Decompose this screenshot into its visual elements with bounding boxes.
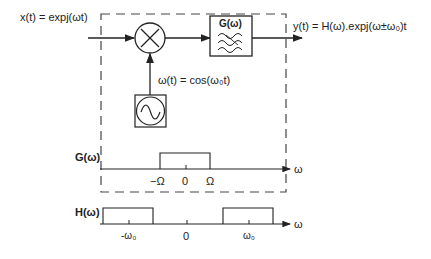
output-signal-label: y(t) = H(ω).expj(ω±ω₀)t [293,21,407,32]
g-tick-neg-omega: −Ω [150,176,165,187]
h-plot-xlabel: ω [294,219,303,230]
input-signal-label: x(t) = expj(ωt) [20,12,88,23]
g-plot-ylabel: G(ω) [75,152,100,163]
g-spectrum-plot [100,153,290,169]
mixer-icon [135,23,165,53]
g-tick-zero: 0 [182,176,188,187]
g-tick-omega: Ω [206,176,214,187]
h-tick-neg-omega0: -ω₀ [121,231,136,241]
oscillator-signal-label: ω(t) = cos(ω₀t) [158,75,230,86]
oscillator-icon [135,95,166,127]
h-tick-zero: 0 [183,231,189,242]
diagram-canvas [0,0,431,259]
filter-label: G(ω) [219,19,242,29]
h-spectrum-plot [100,208,290,224]
h-plot-ylabel: H(ω) [75,207,100,218]
system-boundary [101,14,286,192]
g-plot-xlabel: ω [294,164,303,175]
h-tick-omega0: ω₀ [243,231,255,241]
